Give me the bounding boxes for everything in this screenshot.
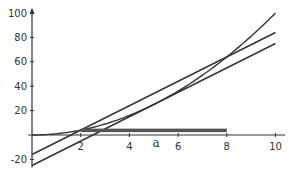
x-tick-label: 8	[224, 141, 230, 152]
y-tick-label: 80	[14, 32, 27, 43]
x-tick-label: 10	[269, 141, 282, 152]
x-tick-label: 6	[175, 141, 181, 152]
y-tick-label: 20	[14, 105, 27, 116]
y-tick-label: -20	[11, 154, 27, 165]
y-tick-label: 40	[14, 81, 27, 92]
y-tick-label: 60	[14, 56, 27, 67]
y-tick-label: 100	[8, 8, 27, 19]
bar-segment	[81, 129, 227, 133]
x-tick-label: 4	[126, 141, 132, 152]
series-curve	[32, 13, 276, 135]
annotation-label: a	[153, 136, 160, 150]
x-tick-label: 2	[78, 141, 84, 152]
chart: 10080604020-20246810a	[0, 0, 293, 176]
tick-labels: 10080604020-20246810a	[8, 8, 282, 165]
